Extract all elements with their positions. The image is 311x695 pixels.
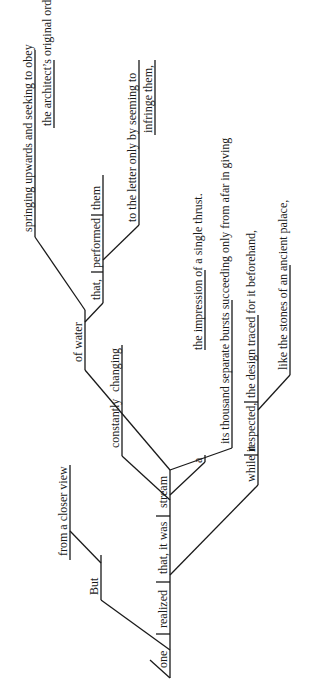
word-design: the design traced for it beforehand, [244, 230, 258, 398]
word-from-closer-view: from a closer view [56, 466, 70, 556]
word-letter-line1: to the letter only by seeming to [125, 73, 139, 222]
word-a: a [191, 457, 205, 463]
word-that-it-was: that, it was [156, 521, 170, 574]
stones-diagonal [258, 375, 290, 410]
word-stones: like the stones of an ancient palace, [276, 200, 290, 370]
word-one: one [156, 651, 170, 668]
word-changing: changing [108, 348, 122, 392]
word-realized: realized [156, 590, 170, 628]
that-diagonal [85, 303, 103, 322]
word-constantly: constantly [108, 399, 122, 448]
while-diagonal [170, 485, 258, 575]
letter-diagonal [103, 225, 139, 260]
word-that: that, [89, 279, 103, 300]
word-springing-line2: the architect’s original orders, [40, 0, 54, 126]
word-springing-line1: springing upwards and seeking to obey [21, 44, 35, 232]
closer-view-diagonal [70, 531, 101, 563]
word-bursts-line2: the impression of a single thrust. [191, 193, 205, 350]
word-of-water: of water [71, 322, 85, 362]
word-letter-line2: infringe them, [141, 65, 155, 133]
a-diagonal [170, 462, 205, 495]
word-bursts-line1: its thousand separate bursts succeeding … [218, 138, 232, 444]
word-respected: respected, [244, 403, 258, 451]
word-stream: stream [156, 475, 170, 508]
word-performed: performed [89, 218, 103, 268]
word-but: But [87, 577, 101, 595]
sentence-diagram: from a closer view But one realized that… [0, 0, 311, 695]
springing-diagonal [35, 237, 85, 310]
word-them: them [89, 185, 103, 210]
of-water-diagonal [85, 370, 170, 470]
